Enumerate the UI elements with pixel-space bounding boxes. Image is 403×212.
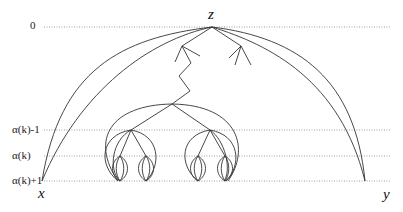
lens-3 — [191, 156, 206, 181]
inner-arc-right — [212, 27, 365, 181]
edge-z-right — [212, 27, 241, 46]
fan-left-a — [175, 46, 182, 62]
zigzag-path — [172, 46, 191, 104]
edge-root-right — [172, 104, 210, 130]
fan-right-c — [241, 46, 251, 65]
level-label-0: 0 — [30, 19, 36, 31]
edge-r-a — [198, 130, 210, 156]
outer-arc-left — [42, 27, 212, 181]
edge-root-left — [131, 104, 172, 130]
lens-1 — [113, 156, 128, 181]
lens-2 — [139, 156, 154, 181]
edge-z-left — [182, 27, 212, 46]
edge-l-b — [131, 130, 146, 156]
tree-edges — [42, 27, 365, 181]
arc-l-c — [113, 130, 131, 181]
node-label-x: x — [38, 185, 45, 202]
tree-diagram — [0, 0, 403, 212]
node-label-y: y — [383, 186, 390, 203]
node-label-z: z — [208, 6, 214, 23]
level-label-alpha-k: α(k) — [12, 149, 31, 161]
level-lines — [44, 27, 390, 181]
outer-arc-right — [212, 27, 365, 181]
level-label-alpha-k-minus-1: α(k)-1 — [12, 123, 40, 135]
